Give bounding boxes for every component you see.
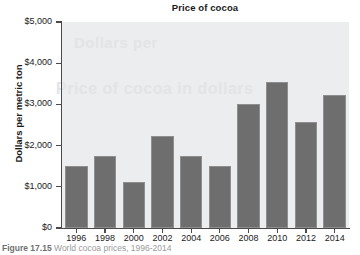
y-axis-tick-4000: [56, 63, 61, 64]
y-axis-tick-3000: [56, 104, 61, 105]
bar-2000: [123, 182, 145, 228]
caption-number: 17.15: [30, 243, 51, 253]
background-watermark-text-2: Price of cocoa in dollars: [56, 80, 253, 98]
y-axis-title: Dollars per metric ton: [13, 24, 24, 204]
y-axis-label-1000: $1,000: [6, 181, 52, 191]
bar-2006: [209, 166, 231, 228]
figure-container: Price of cocoa Dollars per metric ton Do…: [0, 0, 360, 255]
y-axis-line: [61, 21, 62, 229]
y-axis-label-0: $0: [6, 222, 52, 232]
chart-title: Price of cocoa: [60, 2, 350, 13]
y-axis-label-5000: $5,000: [6, 16, 52, 26]
bar-2010: [266, 82, 288, 228]
caption-label: Figure: [2, 243, 28, 253]
bar-2002: [151, 136, 173, 228]
bar-2004: [180, 156, 202, 228]
figure-caption: Figure 17.15 World cocoa prices, 1996-20…: [2, 243, 358, 253]
y-axis-tick-1000: [56, 186, 61, 187]
y-axis-label-3000: $3,000: [6, 98, 52, 108]
bar-2012: [295, 122, 317, 228]
y-axis-label-2000: $2,000: [6, 140, 52, 150]
background-watermark-text-1: Dollars per: [74, 34, 158, 51]
x-axis-label-2014: 2014: [315, 233, 355, 243]
y-axis-tick-5000: [56, 21, 61, 22]
bar-1996: [65, 166, 87, 228]
bar-2014: [323, 95, 345, 228]
bar-1998: [94, 156, 116, 228]
bar-2008: [237, 104, 259, 228]
y-axis-label-4000: $4,000: [6, 57, 52, 67]
caption-text: World cocoa prices, 1996-2014: [54, 243, 172, 253]
y-axis-tick-0: [56, 227, 61, 228]
y-axis-tick-2000: [56, 145, 61, 146]
